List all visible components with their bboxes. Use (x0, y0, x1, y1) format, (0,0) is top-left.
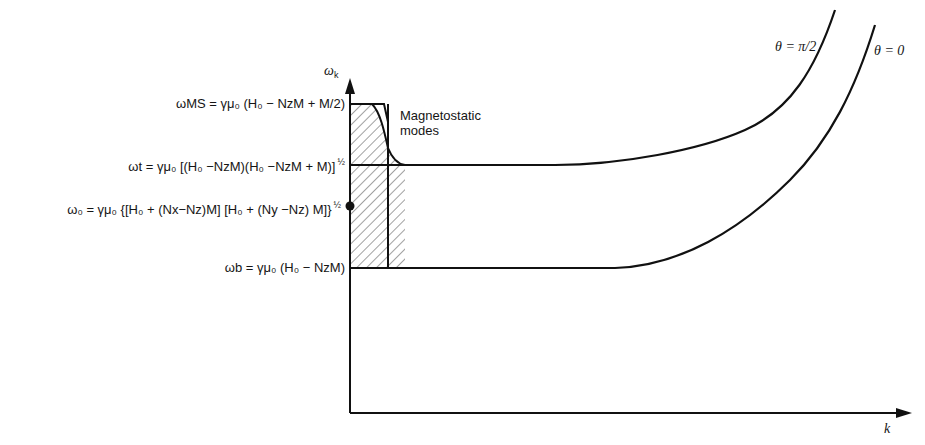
magnetostatic-modes-label: Magnetostatic modes (400, 108, 481, 138)
omega-b-label: ωb = γμ₀ (H₀ − NzM) (225, 261, 345, 274)
y-axis-label: ωk (324, 64, 338, 80)
x-axis (350, 408, 912, 418)
omega-0-label: ω₀ = γμ₀ {[H₀ + (Nx−Nz)M] [H₀ + (Ny −Nz)… (67, 201, 341, 216)
curve-theta-pi-over-2 (350, 10, 835, 165)
dispersion-diagram (0, 0, 925, 445)
theta-0-label: θ = 0 (874, 44, 904, 58)
curve-theta-0 (350, 25, 875, 268)
omega-ms-label: ωMS = γμ₀ (H₀ − NzM + M/2) (176, 97, 345, 110)
theta-pi-over-2-label: θ = π/2 (775, 40, 816, 54)
magnetostatic-hatch-region (350, 104, 405, 268)
omega-t-label: ωt = γμ₀ [(H₀ −NzM)(H₀ −NzM + M)]½ (128, 158, 345, 173)
omega-0-point (346, 202, 355, 211)
x-axis-label: k (884, 422, 890, 436)
